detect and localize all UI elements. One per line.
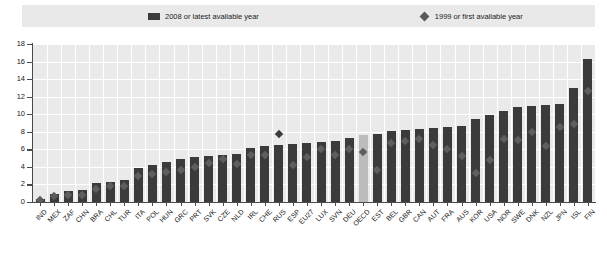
- x-tick-label-nzl: NZL: [539, 208, 553, 222]
- x-tick-label-aus: AUS: [454, 208, 469, 223]
- x-tick-label-kor: KOR: [468, 208, 484, 224]
- x-tick-label-bel: BEL: [385, 208, 399, 222]
- x-tick-label-grc: GRC: [173, 208, 189, 224]
- chart-root: 2008 or latest available year 1999 or fi…: [0, 0, 607, 259]
- x-tick-label-irl: IRL: [246, 208, 259, 221]
- x-tick-label-gbr: GBR: [398, 208, 414, 224]
- x-tick-label-prt: PRT: [188, 208, 203, 223]
- x-tick-label-chn: CHN: [74, 208, 90, 224]
- x-tick-label-rus: RUS: [271, 208, 286, 223]
- x-tick-label-eu27: EU27: [298, 208, 315, 225]
- x-tick-label-zaf: ZAF: [62, 208, 76, 222]
- x-tick-label-tur: TUR: [117, 208, 132, 223]
- x-tick-label-aut: AUT: [427, 208, 442, 223]
- x-tick-label-che: CHE: [257, 208, 272, 223]
- x-tick-label-svn: SVN: [328, 208, 343, 223]
- x-tick-label-pol: POL: [146, 208, 161, 223]
- x-tick-label-fin: FIN: [583, 208, 596, 221]
- x-tick-label-nld: NLD: [230, 208, 245, 223]
- x-tick-label-chl: CHL: [103, 208, 118, 223]
- x-tick-label-hun: HUN: [159, 208, 175, 224]
- x-tick-label-mex: MEX: [46, 208, 62, 224]
- x-tick-label-fra: FRA: [441, 208, 456, 223]
- x-tick-label-dnk: DNK: [524, 208, 539, 223]
- x-tick-label-ind: IND: [34, 208, 47, 221]
- x-tick-label-swe: SWE: [509, 208, 525, 224]
- x-tick-label-usa: USA: [482, 208, 497, 223]
- x-axis-tick-labels: INDMEXZAFCHNBRACHLTURITAPOLHUNGRCPRTSVKC…: [0, 0, 607, 259]
- x-tick-label-nor: NOR: [496, 208, 512, 224]
- x-tick-label-isl: ISL: [569, 208, 581, 220]
- x-tick-label-svk: SVK: [202, 208, 217, 223]
- x-tick-label-lux: LUX: [314, 208, 329, 223]
- x-tick-label-bra: BRA: [89, 208, 104, 223]
- x-tick-label-ita: ITA: [134, 208, 146, 220]
- x-tick-label-cze: CZE: [216, 208, 231, 223]
- x-tick-label-jpn: JPN: [554, 208, 568, 222]
- x-tick-label-est: EST: [371, 208, 386, 223]
- x-tick-label-can: CAN: [412, 208, 427, 223]
